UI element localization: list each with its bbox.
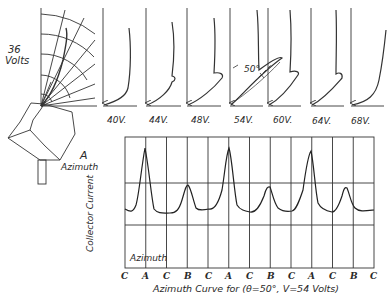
chart-caption: Azimuth Curve for (θ=50°, V=54 Volts)	[153, 283, 339, 294]
tick-label: B	[184, 271, 192, 281]
angle-annotation-label: 50°	[244, 64, 260, 74]
tick-label: C	[121, 271, 128, 281]
tick-label: C	[288, 271, 295, 281]
voltage-label-48v: 48V.	[191, 115, 210, 125]
tick-label: C	[205, 271, 212, 281]
tick-label: A	[142, 271, 149, 281]
tick-label: C	[163, 271, 170, 281]
tick-label: A	[225, 271, 232, 281]
polar-curves	[103, 8, 386, 106]
voltage-label-60v: 60V.	[273, 115, 292, 125]
tick-label: C	[329, 271, 336, 281]
voltage-label-64v: 64V.	[312, 116, 331, 126]
tick-label: A	[308, 271, 315, 281]
tick-label: C	[246, 271, 253, 281]
tick-label: C	[370, 271, 377, 281]
voltage-label-40v: 40V.	[107, 115, 126, 125]
tick-label: B	[267, 271, 275, 281]
polar-plot-36v	[41, 8, 97, 106]
voltage-label-44v: 44V.	[149, 115, 168, 125]
voltage-label-68v: 68V.	[351, 116, 370, 126]
davisson-germer-figure	[0, 0, 388, 299]
tick-label: B	[350, 271, 358, 281]
polar-voltage-unit: Volts	[5, 55, 29, 66]
crystal-label: A	[80, 149, 88, 162]
x-axis-label: Azimuth	[130, 253, 167, 263]
polar-voltage-value: 36	[8, 44, 21, 55]
azimuth-chart	[125, 137, 374, 268]
crystal-sublabel: Azimuth	[61, 162, 98, 172]
voltage-label-54v: 54V.	[234, 115, 253, 125]
y-axis-label: Collector Current	[85, 175, 95, 252]
